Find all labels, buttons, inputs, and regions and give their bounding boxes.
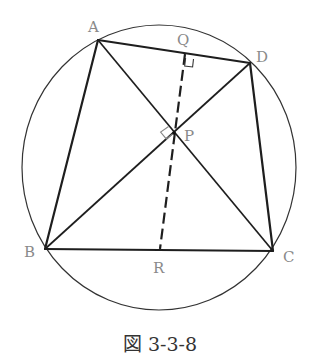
point-p-dot	[172, 131, 176, 135]
right-angle-marker-q	[185, 58, 194, 67]
diagonal-bd	[45, 63, 250, 249]
dashed-line-qr	[160, 54, 185, 249]
label-q: Q	[177, 31, 189, 49]
label-c: C	[283, 248, 294, 266]
label-d: D	[256, 48, 268, 66]
diagonals	[45, 40, 273, 251]
label-r: R	[153, 259, 165, 277]
label-b: B	[24, 243, 35, 261]
diagonal-ac	[98, 40, 273, 251]
figure-caption: 図 3-3-8	[123, 333, 197, 355]
side-ab	[45, 40, 98, 249]
side-cd	[250, 63, 273, 251]
label-p: P	[184, 127, 194, 145]
label-a: A	[87, 18, 99, 36]
side-bc	[45, 249, 273, 251]
geometry-figure: A Q D P B C R 図 3-3-8	[0, 0, 317, 363]
